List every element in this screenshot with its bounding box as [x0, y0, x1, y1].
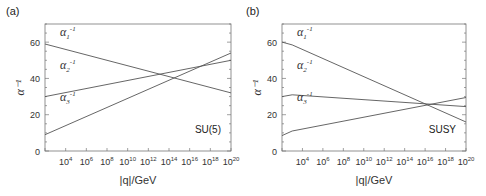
- panel-label: (a): [6, 5, 19, 17]
- x-tick-label: 1014: [161, 156, 178, 167]
- x-tick-label: 108: [100, 156, 114, 167]
- model-annotation: SU(5): [195, 124, 221, 135]
- x-tick-label: 1012: [140, 156, 157, 167]
- x-tick-label: 1010: [119, 156, 136, 167]
- y-axis-title: α⁻¹: [13, 79, 27, 95]
- y-tick-label: 60: [267, 38, 277, 48]
- x-tick-label: 1014: [396, 156, 413, 167]
- y-tick-label: 20: [30, 110, 40, 120]
- x-tick-label: 1012: [376, 156, 393, 167]
- x-tick-label: 1020: [223, 156, 240, 167]
- x-tick-label: 1018: [437, 156, 454, 167]
- chart-panel-a: 0204060104106108101010121014101610181020…: [6, 5, 240, 186]
- y-tick-label: 20: [267, 110, 277, 120]
- y-tick-label: 60: [30, 38, 40, 48]
- series-line-alpha1: [45, 44, 231, 93]
- series-label-alpha3: α3-1: [297, 90, 313, 106]
- x-tick-label: 1018: [202, 156, 219, 167]
- x-tick-label: 104: [296, 156, 310, 167]
- series-line-alpha1: [282, 42, 466, 122]
- x-tick-label: 106: [80, 156, 94, 167]
- series-label-alpha2: α2-1: [297, 58, 313, 74]
- x-tick-label: 1010: [355, 156, 372, 167]
- y-axis-title: α⁻¹: [250, 79, 264, 95]
- x-tick-label: 1016: [181, 156, 198, 167]
- panel-label: (b): [246, 5, 259, 17]
- series-label-alpha2: α2-1: [60, 58, 76, 74]
- series-label-alpha1: α1-1: [297, 25, 313, 41]
- x-axis-title: |q|/GeV: [120, 174, 158, 186]
- y-tick-label: 40: [30, 74, 40, 84]
- y-tick-label: 0: [272, 147, 277, 157]
- y-tick-label: 40: [267, 74, 277, 84]
- x-tick-label: 1020: [458, 156, 475, 167]
- x-tick-label: 1016: [417, 156, 434, 167]
- x-axis-title: |q|/GeV: [356, 174, 394, 186]
- x-tick-label: 108: [337, 156, 351, 167]
- model-annotation: SUSY: [429, 124, 457, 135]
- chart-panel-b: 0204060104106108101010121014101610181020…: [246, 5, 475, 186]
- series-label-alpha1: α1-1: [60, 25, 76, 41]
- x-tick-label: 104: [59, 156, 73, 167]
- y-tick-label: 0: [35, 147, 40, 157]
- x-tick-label: 106: [316, 156, 330, 167]
- coupling-unification-figure: 0204060104106108101010121014101610181020…: [0, 0, 486, 196]
